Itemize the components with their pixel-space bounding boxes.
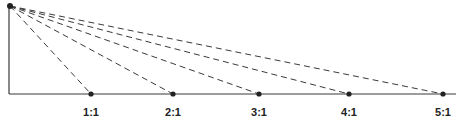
point-3-1 xyxy=(256,91,261,96)
label-3-1: 3:1 xyxy=(251,106,267,118)
point-5-1 xyxy=(440,91,445,96)
point-4-1 xyxy=(346,91,351,96)
origin-point xyxy=(7,3,13,9)
label-4-1: 4:1 xyxy=(341,106,357,118)
ratio-diagram: 1:1 2:1 3:1 4:1 5:1 xyxy=(0,0,456,124)
point-1-1 xyxy=(88,91,93,96)
dashed-line-4-1 xyxy=(10,6,349,94)
dashed-lines xyxy=(10,6,443,94)
dashed-line-3-1 xyxy=(10,6,259,94)
label-5-1: 5:1 xyxy=(435,106,451,118)
ratio-labels: 1:1 2:1 3:1 4:1 5:1 xyxy=(83,106,451,118)
dashed-line-2-1 xyxy=(10,6,173,94)
label-2-1: 2:1 xyxy=(165,106,181,118)
dashed-line-1-1 xyxy=(10,6,91,94)
dashed-line-5-1 xyxy=(10,6,443,94)
point-2-1 xyxy=(170,91,175,96)
label-1-1: 1:1 xyxy=(83,106,99,118)
